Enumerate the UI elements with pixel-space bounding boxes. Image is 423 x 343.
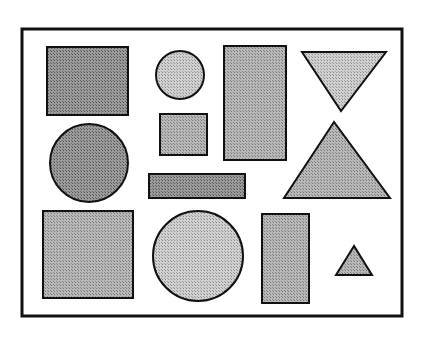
large-triangle xyxy=(284,122,390,198)
large-circle xyxy=(153,211,243,301)
small-circle xyxy=(156,51,204,99)
bottom-rectangle xyxy=(262,214,309,303)
tall-rectangle xyxy=(224,46,286,160)
small-triangle xyxy=(336,246,372,275)
shape-layer xyxy=(43,46,390,303)
small-square xyxy=(160,114,207,155)
medium-circle xyxy=(50,124,128,202)
large-square xyxy=(43,211,133,298)
thin-bar xyxy=(149,174,245,198)
shapes-figure xyxy=(0,0,423,343)
dark-square xyxy=(47,47,128,115)
inverted-triangle xyxy=(302,52,386,111)
